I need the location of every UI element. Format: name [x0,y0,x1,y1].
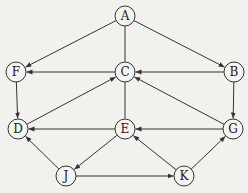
node-g: G [223,119,243,139]
node-label: K [180,169,190,183]
node-f: F [6,62,26,82]
edge-b-g [233,82,234,119]
edge-k-g [191,136,225,169]
node-j: J [56,166,76,186]
edges-layer [16,21,233,176]
edge-a-f [25,21,116,68]
node-b: B [224,62,244,82]
graph-svg: AFCBDEGJK [0,0,248,193]
node-k: K [174,166,194,186]
node-label: J [62,169,69,183]
node-label: C [120,65,129,79]
edge-a-b [134,21,225,68]
node-label: A [120,9,130,23]
node-label: B [230,65,239,79]
graph-diagram: AFCBDEGJK [0,0,248,193]
edge-g-c [134,77,224,124]
node-a: A [115,6,135,26]
edge-j-d [26,136,59,169]
edge-e-j [74,135,117,169]
node-e: E [115,119,135,139]
node-label: E [121,122,130,136]
edge-k-e [133,136,176,170]
edge-f-d [16,82,17,119]
node-label: G [228,122,238,136]
node-label: D [13,122,23,136]
edge-d-c [27,77,116,124]
node-label: F [12,65,20,79]
node-c: C [115,62,135,82]
node-d: D [8,119,28,139]
